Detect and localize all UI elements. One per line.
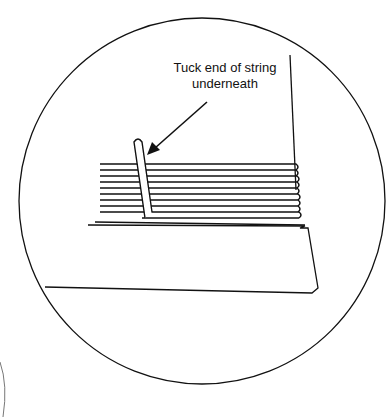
base-block [45,225,318,293]
annotation-line-1: Tuck end of string [150,60,300,76]
annotation-label: Tuck end of string underneath [150,60,300,92]
arrow-head-icon [147,142,160,155]
pointer-arrow [155,102,207,148]
annotation-line-2: underneath [150,76,300,92]
partial-circle-edge [0,362,5,417]
string-wraps [100,164,301,218]
